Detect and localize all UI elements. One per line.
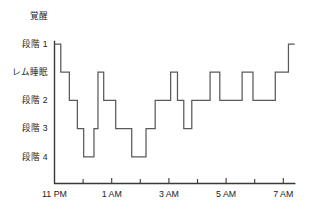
- sleep-trace-group: [55, 44, 295, 157]
- axis-group: [55, 42, 295, 184]
- x-axis-tick-label-3: 5 AM: [216, 189, 236, 199]
- x-axis-tick-label-2: 3 AM: [159, 189, 179, 199]
- chart-axes: [55, 42, 295, 184]
- sleep-stage-chart: 覚醒段階 1レム睡眠段階 2段階 3段階 4 11 PM1 AM3 AM5 AM…: [0, 0, 320, 217]
- x-axis-tick-group: [83, 178, 283, 184]
- x-axis-tick-label-1: 1 AM: [102, 189, 122, 199]
- y-axis-label-rem: レム睡眠: [12, 67, 48, 77]
- y-axis-label-stage1: 段階 1: [22, 38, 47, 49]
- hypnogram-figure: 覚醒段階 1レム睡眠段階 2段階 3段階 4 11 PM1 AM3 AM5 AM…: [0, 0, 320, 217]
- y-axis-label-stage4: 段階 4: [22, 151, 47, 162]
- x-axis-tick-label-0: 11 PM: [42, 189, 67, 199]
- x-axis-label-group: 11 PM1 AM3 AM5 AM7 AM: [42, 189, 293, 199]
- x-axis-tick-label-4: 7 AM: [273, 189, 293, 199]
- y-axis-label-stage2: 段階 2: [22, 94, 47, 105]
- sleep-stage-trace: [55, 44, 295, 157]
- y-axis-label-stage3: 段階 3: [22, 122, 47, 133]
- y-axis-label-group: 覚醒段階 1レム睡眠段階 2段階 3段階 4: [12, 10, 48, 162]
- y-axis-label-awake: 覚醒: [30, 10, 48, 21]
